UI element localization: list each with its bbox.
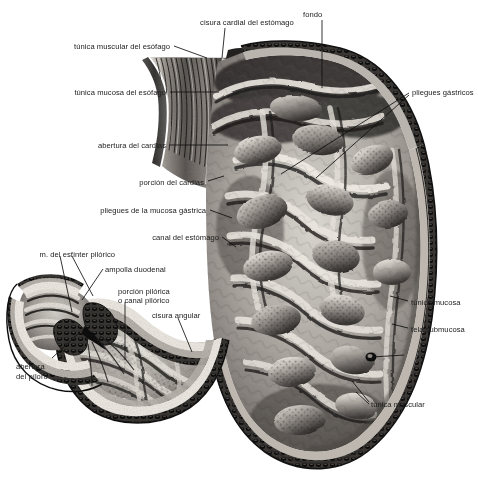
anatomical-figure-stomach: cisura cardial del estómagofondotúnica m…	[0, 0, 478, 494]
label-m-esfinter-pilorico: m. del esfínter pilórico	[25, 250, 115, 259]
label-tunica-muscular-esof: túnica muscular del esófago	[40, 42, 170, 51]
label-tela-submucosa: tela submucosa	[411, 325, 473, 334]
label-fondo: fondo	[303, 10, 343, 19]
label-abertura-cardias: abertura del cardias	[72, 141, 166, 150]
label-porcion-pilorica: porción pilórica	[118, 287, 182, 296]
label-pliegues-mucosa-gastr: pliegues de la mucosa gástrica	[82, 206, 206, 215]
label-abertura-piloro-2: del píloro	[16, 372, 60, 381]
label-tunica-muscular: túnica muscular	[371, 400, 435, 409]
label-ampolla-duodenal: ampolla duodenal	[105, 265, 179, 274]
label-tunica-mucosa-esof: túnica mucosa del esófago	[38, 88, 166, 97]
label-pliegues-gastricos: pliegues gástricos	[412, 88, 478, 97]
label-canal-pilorico: o canal pilórico	[118, 296, 182, 305]
label-cisura-angular: cisura angular	[152, 311, 210, 320]
label-cisura-cardial: cisura cardial del estómago	[186, 18, 308, 27]
label-porcion-cardias: porción del cardias	[110, 178, 204, 187]
label-canal-estomago: canal del estómago	[133, 233, 219, 242]
label-tunica-mucosa: túnica mucosa	[411, 298, 471, 307]
stomach-illustration	[0, 0, 478, 494]
label-abertura-piloro-1: abertura	[16, 362, 60, 371]
